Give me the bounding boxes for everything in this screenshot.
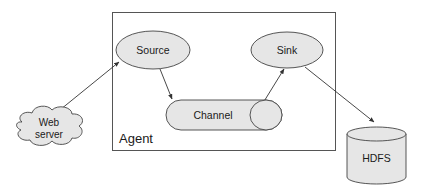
hdfs-label: HDFS [362,152,391,164]
source-label: Source [136,44,169,56]
agent-label: Agent [119,131,153,146]
web-server-label-line1: Web [39,117,60,128]
sink-node: Sink [251,32,323,68]
channel-label: Channel [193,109,232,121]
channel-end-cap [250,100,282,130]
channel-node: Channel [166,100,282,130]
hdfs-top-cap [347,127,406,141]
web-server-node: Web server [17,106,83,145]
source-node: Source [116,31,190,69]
hdfs-node: HDFS [347,127,406,184]
web-server-label-line2: server [35,129,63,140]
sink-label: Sink [277,44,298,56]
flume-diagram: Agent Web server Source Sink Channel HDF… [0,0,421,189]
